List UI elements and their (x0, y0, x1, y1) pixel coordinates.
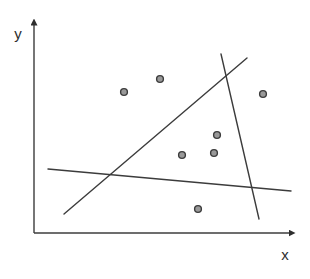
data-point (157, 76, 164, 83)
separator-lines (48, 54, 291, 219)
x-axis-label: x (281, 246, 289, 263)
data-point (211, 150, 218, 157)
shallow-line (48, 169, 291, 191)
figure-canvas: y x (0, 0, 310, 279)
scatter-plot-figure: y x (0, 0, 310, 279)
data-point (214, 132, 221, 139)
data-points (121, 76, 267, 213)
steep-line (221, 54, 259, 219)
axes: y x (14, 22, 292, 263)
data-point (121, 89, 128, 96)
data-point (179, 152, 186, 159)
data-point (260, 91, 267, 98)
data-point (195, 206, 202, 213)
y-axis-label: y (14, 25, 22, 42)
